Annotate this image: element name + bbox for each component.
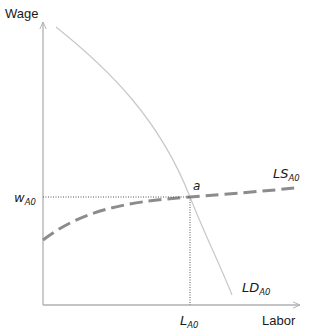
labor-demand-curve — [56, 27, 232, 295]
labor-quantity-label: LA0 — [180, 313, 198, 330]
equilibrium-point-label: a — [193, 179, 200, 193]
y-axis-label: Wage — [5, 6, 38, 21]
x-axis-label: Labor — [262, 313, 295, 328]
demand-curve-label: LDA0 — [242, 280, 271, 297]
wage-label: wA0 — [14, 190, 36, 207]
supply-curve-label: LSA0 — [273, 166, 300, 183]
labor-supply-curve — [43, 188, 295, 240]
